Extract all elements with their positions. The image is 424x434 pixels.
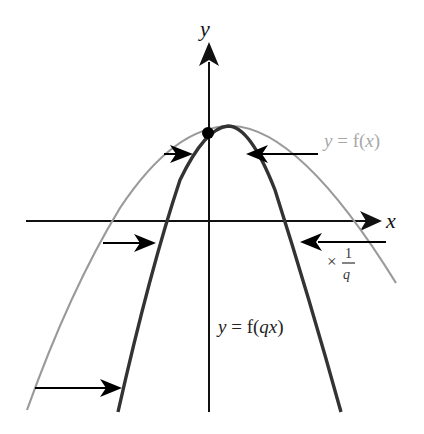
curve-original bbox=[27, 126, 396, 410]
fraction-denominator: q bbox=[343, 267, 350, 282]
intercept-point bbox=[202, 127, 214, 139]
label-original-curve: y = f(x) bbox=[322, 130, 380, 152]
label-transformed-curve: y = f(qx) bbox=[216, 316, 284, 338]
y-axis-label: y bbox=[198, 16, 210, 41]
times-symbol: × bbox=[327, 252, 337, 271]
stretch-diagram: y x y = f(x) y = f(qx) × 1 q bbox=[0, 0, 424, 434]
scale-factor-annotation: × 1 q bbox=[327, 246, 355, 282]
y-axis bbox=[199, 42, 219, 412]
x-axis bbox=[26, 211, 382, 231]
x-axis-label: x bbox=[385, 208, 396, 233]
fraction-numerator: 1 bbox=[345, 246, 352, 261]
stretch-arrows bbox=[35, 145, 386, 397]
